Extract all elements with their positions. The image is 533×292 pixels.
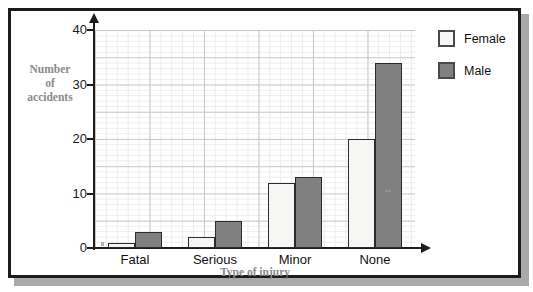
bar-fatal-male — [135, 232, 162, 248]
y-axis-title-line-2: of — [14, 76, 86, 90]
y-axis-tick-mark — [87, 193, 94, 195]
y-axis-tick-mark — [87, 138, 94, 140]
y-axis-tick-label-text: 0 — [61, 240, 87, 255]
legend-label-male: Male — [464, 64, 491, 78]
x-axis-label-minor: Minor — [255, 252, 335, 267]
legend-item-female: Female — [438, 30, 506, 47]
bar-minor-male — [295, 177, 322, 248]
legend-swatch-female-icon — [438, 30, 455, 47]
scan-artifact — [385, 190, 391, 192]
legend: Female Male — [438, 30, 506, 94]
y-axis-tick-mark — [87, 84, 94, 86]
y-axis-tick-label-text: 10 — [61, 186, 87, 201]
y-axis-tick-label-text: 20 — [61, 131, 87, 146]
y-axis-title-line-1: Number — [14, 62, 86, 76]
bar-fatal-female — [108, 243, 135, 248]
bar-none-male — [375, 63, 402, 248]
bar-serious-female — [188, 237, 215, 248]
x-axis-label-none: None — [335, 252, 415, 267]
y-axis-title-line-3: accidents — [14, 90, 86, 104]
x-axis-label-fatal: Fatal — [95, 252, 175, 267]
chart-page: 010203040 FatalSeriousMinorNone Number o… — [0, 0, 533, 292]
y-axis-tick-label: 20 — [50, 131, 87, 145]
bar-none-female — [348, 139, 375, 248]
x-axis-arrow-icon — [421, 243, 431, 253]
legend-swatch-male-icon — [438, 62, 455, 79]
bars-layer — [95, 30, 422, 248]
y-axis-tick-label: 40 — [50, 22, 87, 36]
y-axis-tick-label-text: 40 — [61, 22, 87, 37]
y-axis-tick-label: 0 — [50, 240, 87, 254]
y-axis-tick-mark — [87, 247, 94, 249]
y-axis-arrow-icon — [89, 13, 99, 23]
legend-label-female: Female — [464, 32, 506, 46]
scan-artifact — [101, 242, 104, 246]
x-axis-label-serious: Serious — [175, 252, 255, 267]
bar-minor-female — [268, 183, 295, 248]
legend-item-male: Male — [438, 62, 506, 79]
y-axis-tick-label: 10 — [50, 186, 87, 200]
y-axis-title: Number of accidents — [14, 62, 86, 104]
y-axis-tick-mark — [87, 29, 94, 31]
x-axis-title: Type of injury — [95, 266, 415, 278]
bar-serious-male — [215, 221, 242, 248]
